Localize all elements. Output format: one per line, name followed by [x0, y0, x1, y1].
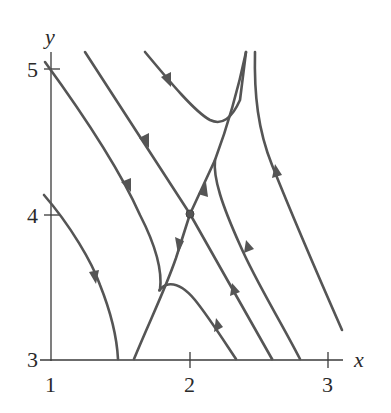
- y-tick-label-3: 3: [27, 347, 38, 372]
- trajectory-left-2: [45, 62, 160, 290]
- phase-portrait: y x 5 4 3 1 2 3: [0, 0, 391, 413]
- x-axis-label: x: [353, 347, 364, 372]
- y-tick-label-4: 4: [27, 203, 38, 228]
- x-tick-label-3: 3: [322, 372, 333, 397]
- equilibrium-point: [186, 210, 194, 218]
- trajectory-left-1: [44, 195, 118, 359]
- trajectory-bottom-arc: [159, 284, 236, 359]
- y-tick-label-5: 5: [27, 57, 38, 82]
- x-tick-label-1: 1: [45, 372, 56, 397]
- trajectories: [44, 52, 342, 359]
- direction-arrows: [89, 72, 282, 332]
- manifold-through-saddle: [134, 52, 246, 359]
- trajectory-far-right: [255, 52, 342, 330]
- trajectory-diag-1: [85, 52, 272, 359]
- arrow-up-icon: [244, 240, 254, 253]
- trajectory-right-2: [215, 160, 300, 359]
- y-axis-label: y: [43, 24, 55, 49]
- arrow-up-icon: [214, 318, 223, 332]
- x-tick-label-2: 2: [184, 372, 195, 397]
